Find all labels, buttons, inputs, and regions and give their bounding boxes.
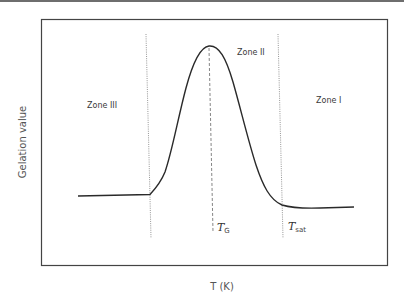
tg-dashed-line xyxy=(209,48,213,232)
tsat-boundary-line xyxy=(278,34,283,238)
x-axis-label: T (K) xyxy=(209,281,234,292)
gelation-diagram: Zone III Zone II Zone I TG Tsat Gelation… xyxy=(0,0,404,303)
gelation-curve xyxy=(78,46,354,208)
y-axis-label: Gelation value xyxy=(17,106,28,178)
zone-boundary-left xyxy=(146,34,151,238)
zone-2-label: Zone II xyxy=(237,48,265,57)
tg-label: TG xyxy=(217,221,230,235)
plot-frame xyxy=(42,20,388,266)
zone-1-label: Zone I xyxy=(316,96,341,105)
tsat-subscript: sat xyxy=(295,226,306,234)
tsat-label: Tsat xyxy=(288,220,306,234)
zone-3-label: Zone III xyxy=(87,101,117,110)
tg-subscript: G xyxy=(224,227,229,235)
